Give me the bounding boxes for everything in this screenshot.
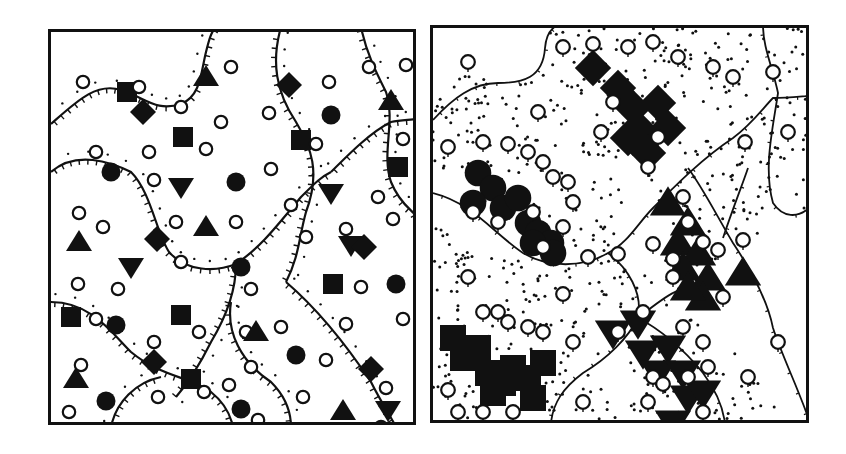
open-circle-icon [771,335,785,349]
open-circle-icon [175,101,187,113]
open-circle-icon [285,199,297,211]
open-circle-icon [372,191,384,203]
open-circle-icon [73,207,85,219]
open-circle-icon [536,325,550,339]
open-circle-icon [696,235,710,249]
open-circle-icon [636,305,650,319]
open-circle-icon [586,37,600,51]
filled-diamond-icon [575,50,611,86]
filled-square-icon [520,385,546,411]
open-circle-icon [466,205,480,219]
filled-inverted-triangle-icon [655,410,691,420]
open-circle-icon [671,50,685,64]
open-circle-icon [521,145,535,159]
open-circle-icon [275,321,287,333]
filled-square-icon [291,130,311,150]
open-circle-icon [476,405,490,419]
open-circle-icon [63,406,75,418]
open-circle-icon [375,421,387,422]
open-circle-icon [576,395,590,409]
territory-boundary [276,32,313,282]
open-circle-icon [611,247,625,261]
open-circle-icon [133,81,145,93]
open-circle-icon [265,163,277,175]
open-circle-icon [781,125,795,139]
left-panel-mixed-distribution [48,29,416,425]
open-circle-icon [225,61,237,73]
open-circle-icon [198,386,210,398]
filled-triangle-icon [193,65,219,86]
open-circle-icon [676,190,690,204]
open-circle-icon [726,70,740,84]
open-circle-icon [611,325,625,339]
open-circle-icon [621,40,635,54]
open-circle-icon [97,221,109,233]
open-circle-icon [641,160,655,174]
filled-inverted-triangle-icon [168,178,194,199]
open-circle-icon [263,107,275,119]
open-circle-icon [666,252,680,266]
open-circle-icon [766,65,780,79]
filled-square-icon [465,335,491,361]
open-circle-icon [566,195,580,209]
filled-circle-icon [322,106,341,125]
open-circle-icon [72,278,84,290]
filled-triangle-icon [66,230,92,251]
open-circle-icon [521,320,535,334]
filled-circle-icon [102,163,121,182]
open-circle-icon [556,40,570,54]
filled-circle-icon [287,346,306,365]
open-circle-icon [75,359,87,371]
open-circle-icon [594,125,608,139]
filled-triangle-icon [378,89,404,110]
open-circle-icon [297,391,309,403]
filled-triangle-icon [330,399,356,420]
filled-square-icon [323,274,343,294]
filled-square-icon [171,305,191,325]
filled-inverted-triangle-icon [318,184,344,205]
open-circle-icon [716,290,730,304]
open-circle-icon [476,135,490,149]
filled-diamond-icon [358,356,384,382]
right-panel-clustered-distribution [430,25,809,423]
open-circle-icon [556,287,570,301]
filled-square-icon [181,369,201,389]
open-circle-icon [646,237,660,251]
filled-inverted-triangle-icon [375,401,401,422]
open-circle-icon [581,250,595,264]
open-circle-icon [152,391,164,403]
filled-square-icon [173,127,193,147]
open-circle-icon [175,256,187,268]
open-circle-icon [441,140,455,154]
open-circle-icon [143,146,155,158]
open-circle-icon [491,215,505,229]
open-circle-icon [741,370,755,384]
filled-circle-icon [232,400,251,419]
open-circle-icon [340,318,352,330]
filled-inverted-triangle-icon [118,258,144,279]
open-circle-icon [646,35,660,49]
open-circle-icon [656,377,670,391]
open-circle-icon [676,320,690,334]
open-circle-icon [536,240,550,254]
open-circle-icon [200,143,212,155]
open-circle-icon [461,55,475,69]
filled-circle-icon [232,258,251,277]
open-circle-icon [641,395,655,409]
open-circle-icon [310,138,322,150]
left-panel-drawing [51,32,413,422]
open-circle-icon [300,231,312,243]
open-circle-icon [506,405,520,419]
open-circle-icon [666,270,680,284]
filled-circle-icon [387,275,406,294]
filled-circle-icon [227,173,246,192]
open-circle-icon [451,405,465,419]
open-circle-icon [526,205,540,219]
open-circle-icon [711,243,725,257]
open-circle-icon [170,216,182,228]
open-circle-icon [681,215,695,229]
open-circle-icon [706,60,720,74]
open-circle-icon [230,216,242,228]
open-circle-icon [561,175,575,189]
open-circle-icon [215,116,227,128]
